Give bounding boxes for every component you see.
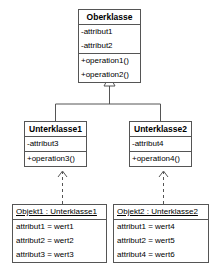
operation-row: +operation1() (79, 54, 140, 68)
operations-compartment: +operation4() (130, 152, 191, 166)
attribute-row: -attribut2 (79, 39, 140, 53)
slot-row: attribut1 = wert4 (114, 220, 208, 234)
operations-compartment: +operation1() +operation2() (79, 54, 140, 82)
class-box-unterklasse2[interactable]: Unterklasse2 -attribut4 +operation4() (129, 121, 192, 167)
operation-row: +operation3() (25, 152, 86, 166)
object-title-text: Objekt2 : Unterklasse2 (117, 207, 198, 216)
attribute-row: -attribut4 (130, 137, 191, 151)
operations-compartment: +operation3() (25, 152, 86, 166)
slot-row: attribut4 = wert6 (114, 248, 208, 262)
attribute-row: -attribut3 (25, 137, 86, 151)
instantiation-edge-right (159, 171, 168, 204)
uml-class-diagram: Oberklasse -attribut1 -attribut2 +operat… (0, 0, 215, 269)
slot-row: attribut2 = wert2 (13, 234, 106, 248)
class-box-oberklasse[interactable]: Oberklasse -attribut1 -attribut2 +operat… (78, 9, 141, 83)
slot-row: attribut2 = wert5 (114, 234, 208, 248)
slot-row: attribut1 = wert1 (13, 220, 106, 234)
attribute-row: -attribut1 (79, 25, 140, 39)
class-name-unterklasse2: Unterklasse2 (130, 122, 191, 137)
slots-compartment: attribut1 = wert4 attribut2 = wert5 attr… (114, 220, 208, 262)
object-box-objekt1[interactable]: Objekt1 : Unterklasse1 attribut1 = wert1… (12, 204, 107, 263)
operation-row: +operation2() (79, 68, 140, 82)
instantiation-edge-left (58, 171, 67, 204)
class-box-unterklasse1[interactable]: Unterklasse1 -attribut3 +operation3() (24, 121, 87, 167)
slot-row: attribut3 = wert3 (13, 248, 106, 262)
class-name-oberklasse: Oberklasse (79, 10, 140, 25)
operation-row: +operation4() (130, 152, 191, 166)
object-title-text: Objekt1 : Unterklasse1 (16, 207, 97, 216)
attributes-compartment: -attribut4 (130, 137, 191, 152)
object-name-objekt2: Objekt2 : Unterklasse2 (114, 205, 208, 220)
class-name-unterklasse1: Unterklasse1 (25, 122, 86, 137)
object-name-objekt1: Objekt1 : Unterklasse1 (13, 205, 106, 220)
attributes-compartment: -attribut1 -attribut2 (79, 25, 140, 54)
object-box-objekt2[interactable]: Objekt2 : Unterklasse2 attribut1 = wert4… (113, 204, 209, 263)
slots-compartment: attribut1 = wert1 attribut2 = wert2 attr… (13, 220, 106, 262)
attributes-compartment: -attribut3 (25, 137, 86, 152)
